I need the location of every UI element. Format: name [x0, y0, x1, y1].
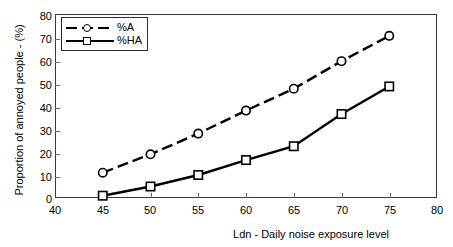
legend-label-ha: %HA — [117, 35, 142, 46]
legend-swatch-a — [66, 22, 114, 34]
data-point — [99, 192, 107, 200]
data-point — [99, 169, 107, 177]
legend-circle-marker-icon — [83, 24, 91, 32]
data-point — [242, 106, 250, 114]
legend-swatch-ha — [66, 35, 114, 47]
series-line-a — [103, 36, 390, 173]
data-point — [194, 129, 202, 137]
legend-square-marker-icon — [83, 37, 91, 45]
data-point — [146, 182, 154, 190]
legend: %A %HA — [61, 17, 148, 51]
data-point — [337, 110, 345, 118]
data-point — [385, 82, 393, 90]
series-line-ha — [103, 86, 390, 195]
data-point — [146, 150, 154, 158]
data-point — [290, 85, 298, 93]
legend-item-a: %A — [66, 21, 142, 34]
legend-item-ha: %HA — [66, 34, 142, 47]
legend-label-a: %A — [117, 22, 134, 33]
data-point — [290, 142, 298, 150]
data-point — [337, 57, 345, 65]
chart-figure: Proportion of annoyed people - (%) Ldn -… — [0, 0, 453, 247]
data-point — [385, 32, 393, 40]
data-point — [194, 171, 202, 179]
data-point — [242, 156, 250, 164]
